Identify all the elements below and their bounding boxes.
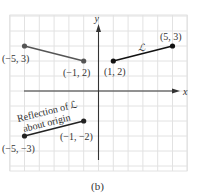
point-label: (5, 3) bbox=[160, 31, 182, 43]
point-label: (−5, −3) bbox=[2, 143, 35, 155]
point-label: (−1, 2) bbox=[63, 67, 90, 79]
y-axis-label: y bbox=[94, 13, 100, 24]
point-marker bbox=[22, 133, 27, 138]
point-label: (−1, −2) bbox=[60, 131, 93, 143]
point-marker bbox=[111, 58, 116, 63]
point-marker bbox=[81, 58, 86, 63]
y-axis-arrow-icon bbox=[96, 24, 101, 32]
point-marker bbox=[170, 43, 175, 48]
point-marker bbox=[22, 43, 27, 48]
coordinate-plane-figure: x y (1, 2)(5, 3)(−5, 3)(−1, 2)(−5, −3)(−… bbox=[0, 0, 199, 196]
figure-caption: (b) bbox=[91, 180, 104, 193]
x-axis-label: x bbox=[182, 86, 188, 97]
line-L-label: ℒ bbox=[138, 42, 146, 53]
point-label: (1, 2) bbox=[104, 66, 126, 78]
x-axis-arrow-icon bbox=[172, 89, 180, 94]
point-label: (−5, 3) bbox=[2, 53, 29, 65]
point-marker bbox=[81, 118, 86, 123]
